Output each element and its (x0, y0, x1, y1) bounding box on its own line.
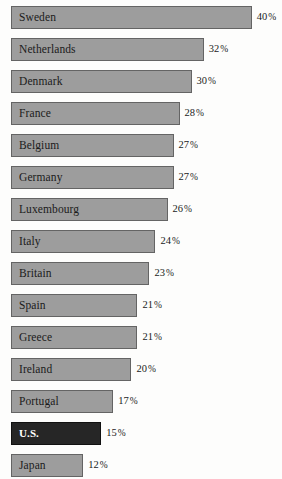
bar-highlighted[interactable]: U.S. (11, 422, 101, 445)
bar-value-label: 27% (174, 172, 198, 183)
bar[interactable]: Portugal (11, 390, 113, 413)
bar-value-label: 17% (113, 396, 137, 407)
bar-value-number: 23 (154, 267, 165, 278)
bar[interactable]: Japan (11, 454, 83, 477)
bar-category-label: Greece (12, 332, 52, 344)
bar-category-label: Spain (12, 300, 46, 312)
bar-row: France28% (0, 102, 282, 125)
bar[interactable]: Greece (11, 326, 137, 349)
percent-sign: % (129, 396, 138, 406)
bar[interactable]: Germany (11, 166, 174, 189)
bar-value-number: 17 (118, 395, 129, 406)
bar[interactable]: Denmark (11, 70, 192, 93)
bar-value-number: 28 (185, 107, 196, 118)
percent-sign: % (99, 460, 108, 470)
percent-sign: % (219, 44, 228, 54)
bar-value-label: 20% (131, 364, 155, 375)
bar-value-label: 40% (252, 12, 276, 23)
bar-row: Britain23% (0, 262, 282, 285)
percent-sign: % (189, 140, 198, 150)
bar-value-number: 26 (173, 203, 184, 214)
bar[interactable]: Italy (11, 230, 155, 253)
percent-sign: % (147, 364, 156, 374)
bar-value-label: 21% (137, 332, 161, 343)
bar-value-number: 21 (142, 299, 153, 310)
percent-sign: % (153, 332, 162, 342)
bar-category-label: Denmark (12, 76, 63, 88)
bar[interactable]: France (11, 102, 180, 125)
bar-row: Denmark30% (0, 70, 282, 93)
bar-value-number: 40 (257, 11, 268, 22)
bar-value-label: 23% (149, 268, 173, 279)
bar-category-label: Germany (12, 172, 63, 184)
bar-row: Spain21% (0, 294, 282, 317)
bar-value-number: 15 (106, 427, 117, 438)
bar-value-label: 28% (180, 108, 204, 119)
bar-category-label: Japan (12, 460, 46, 472)
bar-value-label: 12% (83, 460, 107, 471)
bar-value-number: 21 (142, 331, 153, 342)
bar-category-label: U.S. (12, 428, 39, 439)
bar-value-label: 27% (174, 140, 198, 151)
bar-row: Greece21% (0, 326, 282, 349)
bar-row: Luxembourg26% (0, 198, 282, 221)
bar-value-label: 24% (155, 236, 179, 247)
bar[interactable]: Netherlands (11, 38, 204, 61)
percent-sign: % (171, 236, 180, 246)
bar[interactable]: Sweden (11, 6, 252, 29)
bar-category-label: Belgium (12, 140, 59, 152)
bar-category-label: Portugal (12, 396, 59, 408)
bar-row: Ireland20% (0, 358, 282, 381)
bar-value-label: 26% (168, 204, 192, 215)
bar-category-label: Netherlands (12, 44, 76, 56)
percent-sign: % (183, 204, 192, 214)
bar-row: Belgium27% (0, 134, 282, 157)
bar-row: U.S.15% (0, 422, 282, 445)
bar-category-label: Britain (12, 268, 52, 280)
bar-value-number: 27 (179, 139, 190, 150)
bar-value-number: 24 (160, 235, 171, 246)
bar[interactable]: Ireland (11, 358, 131, 381)
bar-value-number: 32 (209, 43, 220, 54)
bar[interactable]: Luxembourg (11, 198, 168, 221)
bar-value-label: 32% (204, 44, 228, 55)
bar-category-label: Ireland (12, 364, 52, 376)
bar-category-label: Sweden (12, 12, 56, 24)
bar-value-label: 30% (192, 76, 216, 87)
bar-category-label: Luxembourg (12, 204, 79, 216)
bar-row: Netherlands32% (0, 38, 282, 61)
percent-sign: % (153, 300, 162, 310)
bar-value-label: 15% (101, 428, 125, 439)
percent-sign: % (165, 268, 174, 278)
bar-row: Sweden40% (0, 6, 282, 29)
bar[interactable]: Belgium (11, 134, 174, 157)
bar-row: Germany27% (0, 166, 282, 189)
bar-category-label: France (12, 108, 51, 120)
bar[interactable]: Spain (11, 294, 137, 317)
percent-sign: % (267, 12, 276, 22)
percent-sign: % (207, 76, 216, 86)
bar-row: Italy24% (0, 230, 282, 253)
bar-value-number: 30 (197, 75, 208, 86)
bar-row: Japan12% (0, 454, 282, 477)
bar-value-label: 21% (137, 300, 161, 311)
bar-value-number: 20 (136, 363, 147, 374)
percent-sign: % (189, 172, 198, 182)
bar[interactable]: Britain (11, 262, 149, 285)
percent-sign: % (195, 108, 204, 118)
bar-category-label: Italy (12, 236, 41, 248)
bar-list: Sweden40%Netherlands32%Denmark30%France2… (0, 6, 282, 477)
bar-value-number: 12 (88, 459, 99, 470)
bar-value-number: 27 (179, 171, 190, 182)
horizontal-bar-chart: Sweden40%Netherlands32%Denmark30%France2… (0, 0, 282, 479)
percent-sign: % (117, 428, 126, 438)
bar-row: Portugal17% (0, 390, 282, 413)
